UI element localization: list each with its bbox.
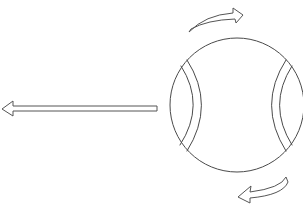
ball-seam-right-inner bbox=[280, 66, 293, 145]
ball-seam-right-outer bbox=[272, 60, 287, 151]
spin-arrow-bottom bbox=[238, 177, 288, 203]
tennis-ball bbox=[170, 38, 303, 172]
motion-arrow-left bbox=[2, 101, 157, 116]
tennis-spin-diagram bbox=[0, 0, 303, 206]
spin-arrow-top bbox=[189, 8, 243, 32]
ball-seam-left-inner bbox=[180, 66, 193, 145]
ball-outline bbox=[170, 38, 303, 172]
ball-seam-left-outer bbox=[187, 60, 202, 151]
